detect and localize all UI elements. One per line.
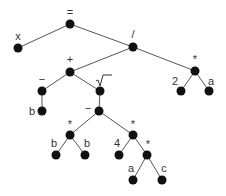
edge-eq-div <box>70 24 133 47</box>
tree-node-plus <box>66 68 75 77</box>
tree-node-a1 <box>205 87 214 96</box>
node-label-b1: b <box>29 105 35 117</box>
edge-plus-neg <box>42 72 70 91</box>
tree-node-c <box>158 176 167 185</box>
tree-node-mul2a <box>191 67 200 76</box>
edge-div-plus <box>70 47 133 72</box>
tree-node-eq <box>66 20 75 29</box>
node-label-a2: a <box>128 162 135 174</box>
tree-node-mulbb <box>66 131 75 140</box>
sqrt-symbol-icon <box>96 75 112 86</box>
node-label-mulac: * <box>146 138 151 150</box>
tree-nodes <box>14 20 214 185</box>
tree-node-b3 <box>81 151 90 160</box>
node-label-div: / <box>131 28 135 40</box>
edge-div-mul2a <box>133 47 195 71</box>
tree-node-x <box>14 44 23 53</box>
node-label-mul4ac: * <box>131 118 136 130</box>
tree-node-a2 <box>129 176 138 185</box>
tree-node-two <box>177 87 186 96</box>
node-label-a1: a <box>208 75 215 87</box>
node-label-plus: + <box>67 53 73 65</box>
edge-minus-mulbb <box>70 111 99 135</box>
node-label-two: 2 <box>172 75 178 87</box>
tree-node-sqrt <box>96 87 105 96</box>
edge-eq-x <box>18 24 70 48</box>
tree-node-four <box>115 151 124 160</box>
expression-tree-diagram: =x/+*−2ab−**bb4*ac <box>0 0 226 196</box>
node-label-minus: − <box>85 102 91 114</box>
tree-node-mul4ac <box>129 131 138 140</box>
node-label-c: c <box>161 162 167 174</box>
node-label-four: 4 <box>114 137 120 149</box>
node-label-eq: = <box>67 6 73 18</box>
tree-edges <box>18 24 209 180</box>
node-label-b3: b <box>84 137 90 149</box>
tree-node-mulac <box>143 151 152 160</box>
edge-plus-sqrt <box>70 72 100 91</box>
node-label-b2: b <box>51 137 57 149</box>
edge-minus-mul4ac <box>99 111 133 135</box>
node-label-mul2a: * <box>193 53 198 65</box>
tree-node-b1 <box>38 107 47 116</box>
node-label-neg: − <box>39 73 45 85</box>
tree-node-div <box>129 43 138 52</box>
node-label-x: x <box>15 30 21 42</box>
node-label-mulbb: * <box>68 118 73 130</box>
tree-node-neg <box>38 87 47 96</box>
tree-node-b2 <box>52 151 61 160</box>
tree-node-minus <box>95 107 104 116</box>
